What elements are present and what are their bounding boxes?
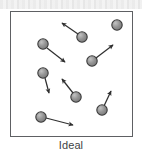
ideal-gas-figure: Ideal xyxy=(0,0,142,152)
particle-4 xyxy=(38,68,48,78)
particles-layer xyxy=(36,20,122,122)
particle-7 xyxy=(36,112,46,122)
velocity-arrow-6 xyxy=(104,91,111,106)
velocity-arrow-4 xyxy=(45,78,49,93)
velocity-arrow-5 xyxy=(62,79,73,93)
velocity-arrow-3 xyxy=(96,45,113,58)
particle-8 xyxy=(112,20,122,30)
particle-5 xyxy=(71,92,81,102)
velocity-arrow-7 xyxy=(46,118,73,125)
particle-1 xyxy=(38,39,48,49)
particle-field xyxy=(0,0,142,152)
particle-3 xyxy=(87,56,97,66)
particle-2 xyxy=(77,32,87,42)
figure-caption: Ideal xyxy=(0,138,142,152)
velocity-arrow-1 xyxy=(47,48,65,62)
particle-6 xyxy=(97,105,107,115)
velocity-arrow-2 xyxy=(62,23,78,34)
